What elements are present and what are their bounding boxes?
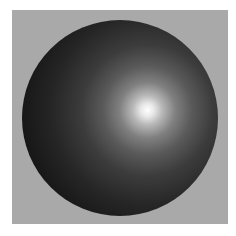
gray-background-panel: [12, 10, 228, 224]
shaded-sphere: [22, 20, 218, 216]
